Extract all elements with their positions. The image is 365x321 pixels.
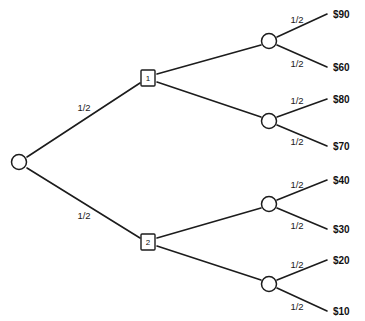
payoff-label-10: $10: [333, 306, 350, 317]
chance-node-2[interactable]: [262, 114, 277, 129]
branch-root-to-decision-1: [27, 83, 140, 157]
payoff-label-80: $80: [333, 94, 350, 105]
payoff-label-70: $70: [333, 141, 350, 152]
probability-label-payoff-30: 1/2: [290, 220, 303, 231]
probability-label-payoff-10: 1/2: [290, 301, 303, 312]
payoff-label-20: $20: [333, 255, 350, 266]
branch-group-decision-2: [157, 208, 261, 280]
branch-decision-1-to-chance-1: [157, 45, 261, 74]
probability-label-payoff-40: 1/2: [290, 179, 303, 190]
decision-node-2-label: 2: [146, 238, 151, 247]
decision-tree-svg: 1 2 1/2 1/2 1/2 1/2 1/2 1/2 1/2 1/2 1/2 …: [0, 0, 365, 321]
branch-decision-2-to-chance-4: [157, 246, 261, 280]
probability-label-root-upper: 1/2: [77, 102, 90, 113]
probability-label-payoff-80: 1/2: [290, 95, 303, 106]
probability-label-payoff-70: 1/2: [290, 136, 303, 147]
probability-label-root-lower: 1/2: [77, 210, 90, 221]
decision-tree-diagram: 1 2 1/2 1/2 1/2 1/2 1/2 1/2 1/2 1/2 1/2 …: [0, 0, 365, 321]
decision-node-1-label: 1: [146, 74, 151, 83]
probability-label-payoff-90: 1/2: [290, 14, 303, 25]
probability-label-payoff-60: 1/2: [290, 58, 303, 69]
branch-decision-1-to-chance-2: [157, 82, 261, 117]
payoff-label-90: $90: [333, 9, 350, 20]
probability-label-payoff-20: 1/2: [290, 259, 303, 270]
branch-root-to-decision-2: [27, 168, 140, 238]
branch-group-decision-1: [157, 45, 261, 117]
payoff-label-60: $60: [333, 62, 350, 73]
payoff-label-40: $40: [333, 175, 350, 186]
chance-node-1[interactable]: [262, 34, 277, 49]
payoff-label-30: $30: [333, 224, 350, 235]
chance-node-4[interactable]: [262, 277, 277, 292]
branch-decision-2-to-chance-3: [157, 208, 261, 238]
chance-node-3[interactable]: [262, 197, 277, 212]
root-chance-node[interactable]: [12, 155, 27, 170]
